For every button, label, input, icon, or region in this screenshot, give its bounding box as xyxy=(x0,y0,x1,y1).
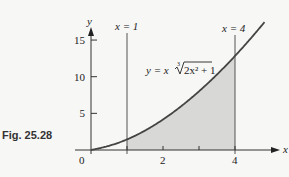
vline2-label: x = 4 xyxy=(221,22,246,34)
y-tick-label: 15 xyxy=(74,34,86,46)
function-label-radicand: 2x² + 1 xyxy=(184,64,216,76)
x-axis-arrow-icon xyxy=(271,147,280,153)
y-tick-label: 10 xyxy=(74,71,86,83)
y-axis-arrow-icon xyxy=(88,27,94,36)
origin-label: 0 xyxy=(79,154,85,166)
y-ticks: 51015 xyxy=(74,34,97,119)
y-tick-label: 5 xyxy=(80,107,86,119)
y-axis-label: y xyxy=(86,15,92,27)
vline1-label: x = 1 xyxy=(114,20,138,32)
function-label-lhs: y = x xyxy=(145,64,169,76)
x-tick-label: 2 xyxy=(160,154,166,166)
x-tick-label: 4 xyxy=(232,154,238,166)
radical-index: 3 xyxy=(177,61,180,67)
function-label: y = x 3 2x² + 1 xyxy=(145,61,216,76)
plot-area: 24 51015 y x x = 1 x = 4 0 y = x 3 2x² +… xyxy=(0,0,289,177)
figure: 24 51015 y x x = 1 x = 4 0 y = x 3 2x² +… xyxy=(0,0,289,177)
figure-caption: Fig. 25.28 xyxy=(2,129,52,141)
x-axis-label: x xyxy=(282,143,288,155)
